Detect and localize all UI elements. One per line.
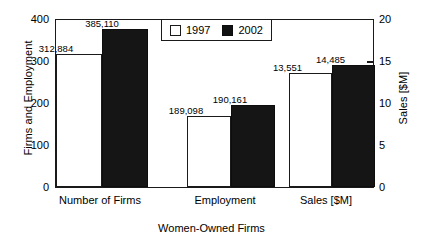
bar-value-employment-1997: 189,098 [164,106,208,116]
bar-value-employment-2002: 190,161 [208,95,252,105]
legend-swatch-2002-icon [222,25,233,36]
bar-value-sales-2002: 14,485 [309,55,352,65]
legend-label-2002: 2002 [238,25,262,36]
y-tick-left-200: 200 [9,98,49,109]
bar-value-sales-1997: 13,551 [266,63,309,73]
y-tick-left-300: 300 [9,56,49,67]
y-tick-right-15: 15 [379,56,419,67]
y-tick-left-400: 400 [9,14,49,25]
bar-employment-1997 [187,116,231,187]
legend-item-2002: 2002 [222,25,262,36]
x-axis-title: Women-Owned Firms [0,222,423,234]
y-tick-left-100: 100 [9,140,49,151]
bar-employment-2002 [231,105,275,187]
legend-item-1997: 1997 [170,25,210,36]
x-category-sales: Sales [$M] [246,194,406,206]
legend: 1997 2002 [161,19,272,41]
legend-label-1997: 1997 [186,25,210,36]
y-axis-right-ticks: 20 15 10 5 0 [379,0,423,245]
bar-chart: Firms and Employment Sales [$M] Women-Ow… [0,0,423,245]
bar-number-of-firms-1997 [56,54,102,187]
bar-number-of-firms-2002 [102,29,148,187]
bar-value-number-of-firms-1997: 312,884 [33,44,79,54]
bar-sales-2002 [332,65,375,187]
tick-mark-right-15 [367,61,373,63]
bar-value-number-of-firms-2002: 385,110 [79,19,125,29]
y-tick-left-0: 0 [9,182,49,193]
y-axis-left-ticks: 400 300 200 100 0 [6,0,49,245]
bar-sales-1997 [289,73,332,187]
legend-swatch-1997-icon [170,25,181,36]
y-tick-right-5: 5 [379,140,419,151]
y-tick-right-10: 10 [379,98,419,109]
y-tick-right-20: 20 [379,14,419,25]
y-tick-right-0: 0 [379,182,419,193]
